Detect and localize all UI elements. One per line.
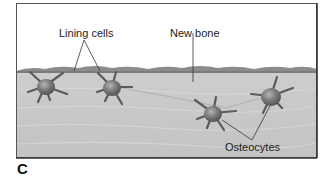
diagram-canvas: [0, 0, 336, 178]
label-new-bone: New bone: [170, 27, 220, 39]
panel-letter: C: [17, 160, 28, 177]
label-lining-cells: Lining cells: [59, 27, 113, 39]
label-osteocytes: Osteocytes: [225, 141, 280, 153]
bone-remodeling-figure: Lining cells New bone Osteocytes C: [0, 0, 336, 178]
